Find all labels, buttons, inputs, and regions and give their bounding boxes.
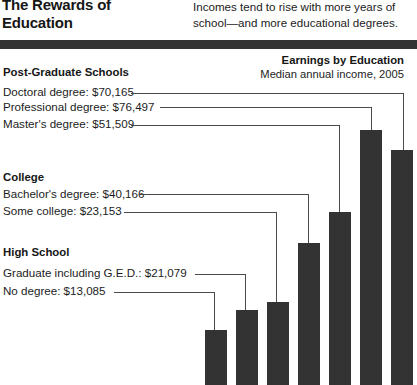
leader-line-professional-vertical bbox=[371, 107, 372, 131]
infographic-root: The Rewards of Education Incomes tend to… bbox=[0, 0, 417, 385]
bar-masters-degree bbox=[329, 212, 351, 385]
leader-line-masters-horizontal bbox=[131, 125, 339, 126]
leader-line-no-degree-horizontal bbox=[114, 292, 214, 293]
leader-line-bachelors-horizontal bbox=[140, 194, 308, 195]
leader-line-doctoral-vertical bbox=[403, 93, 404, 151]
label-doctoral-degree: Doctoral degree: $70,165 bbox=[3, 85, 134, 98]
group-heading-high-school: High School bbox=[3, 246, 69, 258]
leader-line-masters-vertical bbox=[339, 125, 340, 213]
chart-title: Earnings by Education bbox=[282, 54, 404, 66]
bar-some-college bbox=[267, 302, 289, 385]
label-professional-degree: Professional degree: $76,497 bbox=[3, 100, 154, 113]
leader-line-some-college-vertical bbox=[276, 212, 277, 303]
label-graduate-ged: Graduate including G.E.D.: $21,079 bbox=[3, 266, 187, 279]
bar-bachelors-degree bbox=[298, 243, 320, 385]
label-masters-degree: Master's degree: $51,509 bbox=[3, 117, 134, 130]
leader-line-doctoral-horizontal bbox=[131, 93, 403, 94]
bar-no-degree bbox=[205, 330, 227, 385]
leader-line-graduate-ged-vertical bbox=[245, 274, 246, 311]
leader-line-graduate-ged-horizontal bbox=[195, 274, 245, 275]
group-heading-college: College bbox=[3, 171, 44, 183]
page-title: The Rewards of Education bbox=[2, 0, 182, 32]
header-divider-rule bbox=[0, 40, 417, 49]
chart-subtitle: Median annual income, 2005 bbox=[260, 68, 404, 80]
leader-line-some-college-horizontal bbox=[124, 212, 276, 213]
bar-doctoral-degree bbox=[391, 150, 413, 385]
label-bachelors-degree: Bachelor's degree: $40,166 bbox=[3, 187, 144, 200]
page-subtitle: Incomes tend to rise with more years of … bbox=[193, 0, 417, 31]
label-some-college: Some college: $23,153 bbox=[3, 204, 122, 217]
bar-professional-degree bbox=[360, 130, 382, 385]
label-no-degree: No degree: $13,085 bbox=[3, 284, 106, 297]
leader-line-no-degree-vertical bbox=[214, 292, 215, 331]
bar-graduate-ged bbox=[236, 310, 258, 385]
leader-line-bachelors-vertical bbox=[308, 194, 309, 244]
leader-line-professional-horizontal bbox=[160, 107, 371, 108]
group-heading-post-graduate: Post-Graduate Schools bbox=[3, 66, 129, 78]
